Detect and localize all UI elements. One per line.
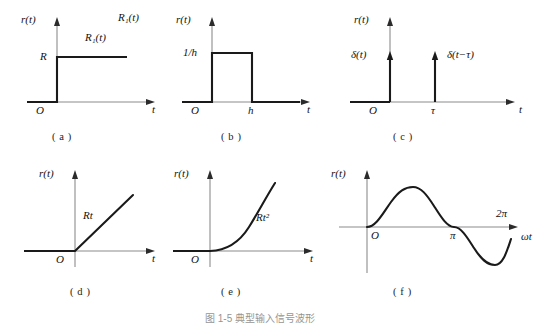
y-axis-label-a: r(t): [21, 14, 36, 25]
tick-label-c-tau: τ: [431, 105, 435, 116]
value-label-a-R: R: [40, 51, 47, 62]
impulse-label-delta-t-tau: δ(t−τ): [447, 49, 474, 60]
y-axis-label-c: r(t): [354, 14, 369, 25]
value-label-b: 1/h: [183, 47, 197, 58]
x-axis-label-e: t: [310, 253, 313, 264]
y-axis-arrow: [387, 17, 393, 26]
tick-label-f-pi: π: [450, 230, 456, 241]
tick-label-f-2pi: 2π: [496, 208, 507, 219]
y-axis-label-f: r(t): [331, 168, 346, 179]
outer-label-a: R₁(t): [118, 12, 139, 23]
subcaption-c: ( c ): [393, 131, 413, 142]
panel-b: r(t) t O 1/h h: [165, 0, 340, 130]
origin-label-e: O: [191, 254, 199, 265]
y-axis-arrow: [209, 17, 215, 26]
x-axis-label-a: t: [152, 104, 155, 115]
subcaption-e: ( e ): [221, 286, 241, 297]
y-axis-arrow: [54, 17, 60, 26]
x-axis-label-b: t: [307, 104, 310, 115]
x-axis-label-d: t: [152, 253, 155, 264]
subcaption-d: ( d ): [70, 286, 91, 297]
impulse-label-delta-t: δ(t): [351, 49, 367, 60]
y-axis-label-d: r(t): [39, 168, 54, 179]
origin-label-a: O: [36, 105, 44, 116]
origin-label-b: O: [191, 105, 199, 116]
x-axis-arrow: [509, 224, 518, 230]
sine-curve: [367, 187, 511, 265]
subcaption-f: ( f ): [393, 286, 412, 297]
pulse-curve: [182, 53, 300, 102]
panel-a: r(t) t O R R₁(t) R₁(t): [0, 0, 180, 130]
panel-f: r(t) ωt O π 2π: [335, 155, 551, 283]
y-axis-arrow: [207, 170, 213, 179]
origin-label-f: O: [371, 230, 379, 241]
origin-label-d: O: [56, 254, 64, 265]
y-axis-label-e: r(t): [174, 168, 189, 179]
origin-label-c: O: [369, 105, 377, 116]
panel-d: r(t) t O Rt: [0, 155, 180, 283]
step-curve: [27, 57, 127, 102]
subcaption-b: ( b ): [221, 131, 242, 142]
y-axis-arrow: [72, 170, 78, 179]
y-axis-label-b: r(t): [176, 14, 191, 25]
curve-label-d: Rt: [83, 210, 93, 221]
x-axis-arrow: [506, 99, 515, 105]
y-axis-arrow: [364, 170, 370, 179]
x-axis-label-f: ωt: [521, 231, 532, 242]
curve-label-e: Rt²: [256, 212, 269, 223]
ramp-curve: [75, 195, 133, 251]
tick-label-b-h: h: [248, 105, 254, 116]
impulse-at-origin-arrow: [387, 51, 393, 60]
panel-c: r(t) t O δ(t) δ(t−τ) τ: [335, 0, 551, 130]
curve-label-a: R₁(t): [85, 32, 106, 43]
subcaption-a: ( a ): [52, 131, 72, 142]
x-axis-label-c: t: [519, 104, 522, 115]
impulse-at-tau-arrow: [432, 51, 438, 60]
figure-caption: 图 1-5 典型输入信号波形: [205, 310, 315, 325]
panel-e: r(t) t O Rt²: [165, 155, 345, 283]
